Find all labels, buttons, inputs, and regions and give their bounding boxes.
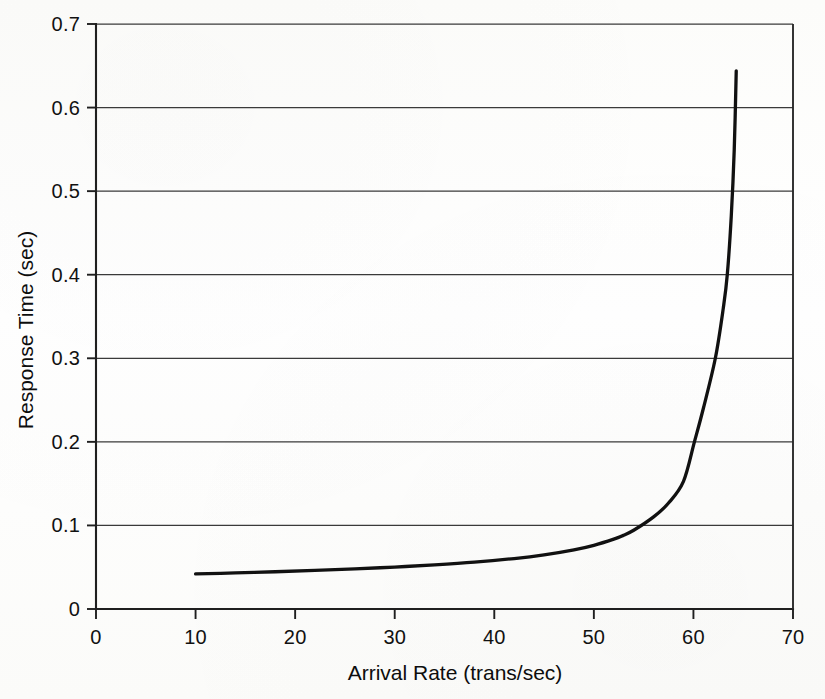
- gridlines: [96, 24, 793, 525]
- y-axis-tick-labels: 00.10.20.30.40.50.60.7: [52, 13, 80, 620]
- x-axis-tick-labels: 010203040506070: [90, 626, 804, 648]
- data-series-response-time: [196, 71, 737, 574]
- x-tick-label: 70: [782, 626, 805, 648]
- x-tick-label: 0: [90, 626, 101, 648]
- chart-figure: 00.10.20.30.40.50.60.7 010203040506070 A…: [0, 0, 825, 699]
- y-tick-label: 0.2: [52, 431, 80, 453]
- x-tick-label: 50: [583, 626, 606, 648]
- response-time-chart: 00.10.20.30.40.50.60.7 010203040506070 A…: [0, 0, 825, 699]
- x-tick-label: 40: [483, 626, 506, 648]
- x-tick-label: 20: [284, 626, 307, 648]
- y-tick-label: 0.6: [52, 97, 80, 119]
- y-axis-ticks: [87, 24, 96, 609]
- x-axis-title: Arrival Rate (trans/sec): [348, 661, 563, 684]
- x-axis-ticks: [96, 609, 793, 619]
- y-tick-label: 0.5: [52, 180, 80, 202]
- x-tick-label: 30: [383, 626, 406, 648]
- y-tick-label: 0: [69, 598, 80, 620]
- y-tick-label: 0.4: [52, 264, 80, 286]
- y-tick-label: 0.7: [52, 13, 80, 35]
- y-tick-label: 0.3: [52, 347, 80, 369]
- x-tick-label: 60: [682, 626, 705, 648]
- y-axis-title: Response Time (sec): [14, 231, 37, 429]
- response-time-curve: [196, 71, 737, 574]
- y-tick-label: 0.1: [52, 514, 80, 536]
- plot-frame: [96, 24, 793, 609]
- x-tick-label: 10: [184, 626, 207, 648]
